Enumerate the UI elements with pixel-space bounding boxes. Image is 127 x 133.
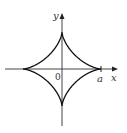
x-axis-arrow-icon: [112, 67, 118, 72]
origin-label: 0: [55, 72, 61, 82]
y-axis-label: y: [52, 10, 59, 21]
x-axis-label: x: [111, 72, 117, 83]
astroid-diagram: y x 0 a: [0, 0, 127, 133]
y-axis-arrow-icon: [60, 13, 65, 19]
a-label: a: [97, 73, 103, 84]
